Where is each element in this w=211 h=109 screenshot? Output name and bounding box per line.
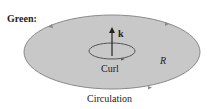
green-theorem-diagram: Green: k Curl R Circulation <box>0 0 211 109</box>
circulation-arrow-bottom-icon <box>148 86 152 90</box>
region-label: R <box>160 55 166 66</box>
curl-label: Curl <box>101 63 119 74</box>
diagram-title: Green: <box>7 13 37 24</box>
circulation-label: Circulation <box>87 93 132 104</box>
k-label: k <box>118 28 124 39</box>
